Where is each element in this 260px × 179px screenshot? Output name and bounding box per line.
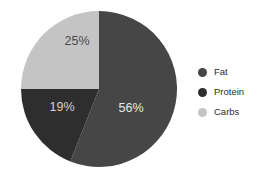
pie-slice-label-protein: 19% xyxy=(49,100,74,114)
legend-label-fat: Fat xyxy=(214,67,228,77)
pie-slices xyxy=(21,11,177,167)
pie-slice-carbs[interactable] xyxy=(21,11,99,89)
pie-slice-label-carbs: 25% xyxy=(64,34,89,48)
legend-label-carbs: Carbs xyxy=(214,107,239,117)
legend-label-protein: Protein xyxy=(214,87,244,97)
legend-swatch-protein xyxy=(198,88,207,97)
legend-swatch-fat xyxy=(198,68,207,77)
legend-item-carbs[interactable]: Carbs xyxy=(198,102,258,122)
legend-item-protein[interactable]: Protein xyxy=(198,82,258,102)
chart-legend: Fat Protein Carbs xyxy=(198,62,258,122)
pie-chart: 56%19%25% Fat Protein Carbs xyxy=(0,0,260,179)
pie-slice-label-fat: 56% xyxy=(118,101,143,115)
legend-swatch-carbs xyxy=(198,108,207,117)
legend-item-fat[interactable]: Fat xyxy=(198,62,258,82)
